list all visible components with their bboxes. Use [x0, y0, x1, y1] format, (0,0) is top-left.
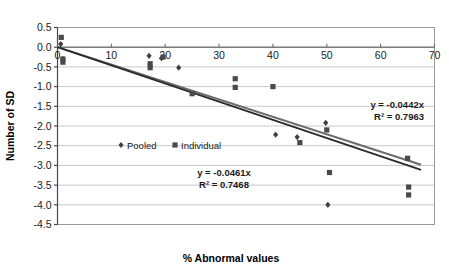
y-axis-tick-label: -1.0: [33, 80, 51, 92]
data-point-individual: [297, 140, 302, 145]
data-point-individual: [160, 54, 165, 59]
x-axis-tick-label: 50: [321, 49, 333, 61]
x-axis-tick-label: 60: [375, 49, 387, 61]
pooled-equation-text: y = -0.0442x: [370, 99, 424, 110]
y-axis-title: Number of SD: [4, 91, 16, 161]
individual-r2-text: R² = 0.7468: [199, 179, 249, 190]
data-point-individual: [327, 170, 332, 175]
y-axis-tick-label: -2.5: [33, 139, 51, 151]
y-axis-tick-label: -3.0: [33, 159, 51, 171]
data-point-individual: [59, 35, 64, 40]
data-point-individual: [270, 84, 275, 89]
pooled-r2-text: R² = 0.7963: [374, 111, 424, 122]
data-point-individual: [233, 76, 238, 81]
data-point-individual: [60, 60, 65, 65]
x-axis-tick-label: 70: [429, 49, 441, 61]
data-point-individual: [148, 65, 153, 70]
data-point-individual: [405, 156, 410, 161]
individual-equation-text: y = -0.0461x: [197, 167, 251, 178]
y-axis-tick-label: -0.5: [33, 61, 51, 73]
y-axis-tick-label: -4.5: [33, 218, 51, 230]
x-axis-tick-label: 10: [106, 49, 118, 61]
y-axis-tick-label: -3.5: [33, 179, 51, 191]
legend-label-individual: Individual: [181, 140, 221, 151]
data-point-individual: [233, 85, 238, 90]
y-axis-tick-label: 0.0: [37, 41, 52, 53]
data-point-individual: [406, 184, 411, 189]
x-axis-tick-label: 40: [267, 49, 279, 61]
y-axis-tick-label: -4.0: [33, 199, 51, 211]
data-point-individual: [190, 91, 195, 96]
data-point-individual: [324, 127, 329, 132]
scatter-chart: 0.50.0-0.5-1.0-1.5-2.0-2.5-3.0-3.5-4.0-4…: [0, 0, 449, 276]
chart-background: [0, 0, 449, 276]
legend-label-pooled: Pooled: [127, 140, 157, 151]
x-axis-title: % Abnormal values: [183, 252, 280, 264]
y-axis-tick-label: -2.0: [33, 120, 51, 132]
y-axis-tick-label: -1.5: [33, 100, 51, 112]
data-point-individual: [406, 192, 411, 197]
legend-marker-square: [172, 142, 177, 147]
chart-canvas: 0.50.0-0.5-1.0-1.5-2.0-2.5-3.0-3.5-4.0-4…: [0, 0, 449, 276]
x-axis-tick-label: 30: [213, 49, 225, 61]
y-axis-tick-label: 0.5: [37, 21, 52, 33]
x-axis-tick-label: 0: [55, 49, 61, 61]
